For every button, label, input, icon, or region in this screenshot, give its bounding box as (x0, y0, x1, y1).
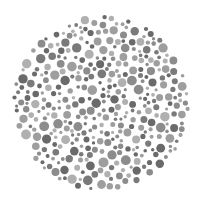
dot (92, 99, 101, 108)
dot (58, 92, 61, 95)
dot (118, 129, 122, 133)
dot (109, 16, 114, 21)
dot (75, 137, 79, 141)
dot (115, 184, 121, 190)
dot (44, 64, 50, 70)
dot (165, 93, 172, 100)
dot (146, 87, 149, 90)
dot (83, 67, 90, 74)
dot (102, 15, 106, 19)
dot (126, 173, 131, 178)
dot (135, 146, 139, 150)
dot (57, 60, 65, 68)
dot (183, 100, 188, 105)
dot (178, 82, 187, 91)
dot (43, 166, 46, 169)
dot (138, 50, 141, 53)
dot (84, 137, 90, 143)
dot (42, 135, 51, 144)
dot (46, 112, 49, 115)
dot (61, 157, 65, 161)
dot (99, 157, 109, 167)
dot (90, 44, 95, 49)
dot (100, 93, 105, 98)
dot (147, 160, 152, 165)
dot (103, 29, 108, 34)
dot (99, 46, 107, 54)
dot (84, 116, 88, 120)
dot (51, 112, 57, 118)
dot (118, 78, 127, 87)
dot (138, 125, 144, 131)
dot (26, 90, 30, 94)
dot (37, 84, 42, 89)
dot (147, 101, 151, 105)
dot (37, 152, 41, 156)
dot (151, 148, 154, 151)
dot (149, 79, 157, 87)
dot (122, 99, 128, 105)
dot (141, 79, 145, 83)
dot (174, 103, 180, 109)
dot (180, 122, 184, 126)
dot (51, 157, 55, 161)
dot (117, 74, 121, 78)
dot (131, 109, 135, 113)
dot (25, 102, 28, 105)
dot (51, 91, 56, 96)
dot (43, 116, 47, 120)
dot (107, 90, 111, 94)
dot (61, 135, 70, 144)
dot (48, 52, 56, 60)
dot (98, 168, 104, 174)
dot (85, 41, 88, 44)
dot (32, 143, 40, 151)
dot (88, 30, 94, 36)
dot (89, 187, 92, 190)
dot (15, 108, 19, 112)
dot (140, 134, 145, 139)
dot (139, 54, 143, 58)
dot (138, 73, 143, 78)
dot (125, 111, 129, 115)
dot (68, 24, 71, 27)
dot (79, 152, 84, 157)
dot (68, 88, 73, 93)
dot (77, 71, 80, 74)
dot (100, 149, 105, 154)
dot (79, 57, 85, 63)
dot (181, 74, 185, 78)
dot (116, 173, 123, 180)
dot (60, 76, 69, 85)
dot (120, 139, 124, 143)
dot (131, 27, 139, 35)
dot (154, 113, 159, 118)
dot (79, 26, 82, 29)
dot (18, 74, 27, 83)
dot (75, 183, 81, 189)
dot (109, 177, 113, 181)
dot (43, 77, 49, 83)
dot (107, 85, 112, 90)
dot (113, 45, 117, 49)
dot (116, 89, 122, 95)
dot (64, 125, 70, 131)
dot (74, 165, 80, 171)
dot (132, 136, 140, 144)
dot (96, 56, 100, 60)
dot (139, 97, 142, 100)
dot (168, 101, 173, 106)
dot (33, 156, 38, 161)
dot (157, 134, 162, 139)
dot (102, 57, 106, 61)
dot (109, 107, 115, 113)
dot (125, 26, 129, 30)
dot (75, 75, 81, 81)
dot (138, 67, 143, 72)
dot (121, 22, 125, 26)
dot (83, 27, 88, 32)
dot (54, 32, 60, 38)
dot (109, 165, 114, 170)
dot (44, 71, 48, 75)
dot (134, 85, 144, 95)
